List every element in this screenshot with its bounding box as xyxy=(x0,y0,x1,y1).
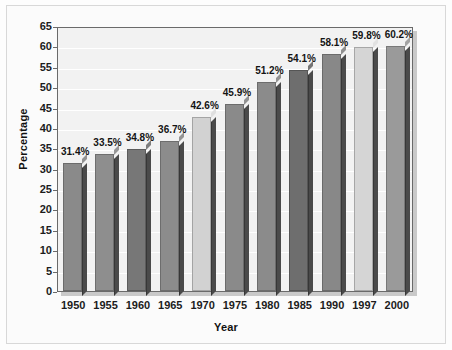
bar-side-3d xyxy=(146,149,151,296)
bar-side-3d xyxy=(114,154,119,296)
x-axis-title: Year xyxy=(0,321,452,333)
bar[interactable] xyxy=(192,117,211,291)
bar-value-label: 45.9% xyxy=(214,88,260,98)
chart-figure: 05101520253035404550556065 Percentage 19… xyxy=(0,0,452,350)
bar-value-label: 42.6% xyxy=(182,101,228,111)
bar-face xyxy=(386,46,405,291)
x-tick-label: 2000 xyxy=(377,300,417,311)
bar[interactable] xyxy=(354,47,373,291)
bar-face xyxy=(322,54,341,291)
bar-side-3d xyxy=(373,47,378,296)
bar-side-3d xyxy=(276,82,281,296)
bar-side-3d xyxy=(405,46,410,296)
bar-side-3d xyxy=(82,163,87,296)
bar[interactable] xyxy=(386,46,405,291)
y-axis-title: Percentage xyxy=(17,84,29,194)
bar-side-3d xyxy=(341,54,346,296)
bar-face xyxy=(63,163,82,291)
bar-value-label: 60.2% xyxy=(376,30,422,40)
plot-area xyxy=(57,27,413,292)
bar[interactable] xyxy=(160,141,179,291)
bar-side-3d xyxy=(179,141,184,296)
bar-face xyxy=(354,47,373,291)
bar[interactable] xyxy=(225,104,244,291)
bar-face xyxy=(289,70,308,291)
bar-value-label: 51.2% xyxy=(246,66,292,76)
bar-face xyxy=(257,82,276,291)
bar[interactable] xyxy=(289,70,308,291)
bar-face xyxy=(127,149,146,291)
bar[interactable] xyxy=(95,154,114,291)
bar[interactable] xyxy=(257,82,276,291)
bar-side-3d xyxy=(211,117,216,296)
bar[interactable] xyxy=(127,149,146,291)
bar-value-label: 36.7% xyxy=(149,125,195,135)
bar-face xyxy=(95,154,114,291)
bar-value-label: 54.1% xyxy=(279,54,325,64)
bar[interactable] xyxy=(63,163,82,291)
bar-side-3d xyxy=(244,104,249,296)
plot-frame-shadow-right xyxy=(413,31,417,296)
bar[interactable] xyxy=(322,54,341,291)
bar-face xyxy=(225,104,244,291)
bar-side-3d xyxy=(308,70,313,296)
bar-value-label: 31.4% xyxy=(52,147,98,157)
bar-face xyxy=(192,117,211,291)
bar-face xyxy=(160,141,179,291)
